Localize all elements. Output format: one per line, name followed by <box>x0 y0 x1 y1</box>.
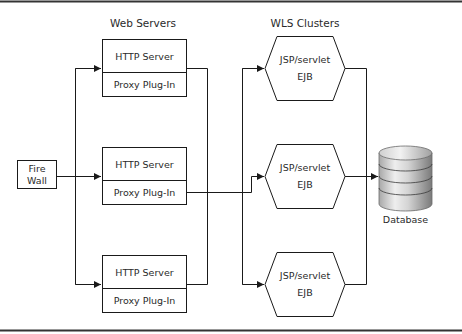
proxy-plugin-label: Proxy Plug-In <box>114 79 176 90</box>
firewall-label-line2: Wall <box>27 175 47 186</box>
wls-cluster-3: JSP/servlet EJB <box>265 253 345 317</box>
cluster-label-ejb: EJB <box>297 71 312 82</box>
http-server-label: HTTP Server <box>115 267 174 278</box>
web-servers-title: Web Servers <box>110 17 176 29</box>
web-server-1: HTTP Server Proxy Plug-In <box>103 40 187 97</box>
cluster-label-jsp: JSP/servlet <box>279 270 331 281</box>
cluster-label-ejb: EJB <box>297 287 312 298</box>
database-icon <box>379 146 432 211</box>
cluster-label-ejb: EJB <box>297 179 312 190</box>
wls-cluster-2: JSP/servlet EJB <box>265 145 345 209</box>
wls-clusters-title: WLS Clusters <box>271 17 340 29</box>
architecture-diagram: Web Servers WLS Clusters Fire Wall HTTP … <box>0 0 462 334</box>
firewall-box: Fire Wall <box>18 161 57 189</box>
firewall-label-line1: Fire <box>29 163 46 174</box>
database-label: Database <box>383 214 428 225</box>
web-server-3: HTTP Server Proxy Plug-In <box>103 256 187 313</box>
http-server-label: HTTP Server <box>115 51 174 62</box>
wls-cluster-1: JSP/servlet EJB <box>265 37 345 101</box>
proxy-plugin-label: Proxy Plug-In <box>114 295 176 306</box>
http-server-label: HTTP Server <box>115 159 174 170</box>
cluster-label-jsp: JSP/servlet <box>279 54 331 65</box>
web-server-2: HTTP Server Proxy Plug-In <box>103 148 187 205</box>
proxy-plugin-label: Proxy Plug-In <box>114 187 176 198</box>
cluster-label-jsp: JSP/servlet <box>279 162 331 173</box>
